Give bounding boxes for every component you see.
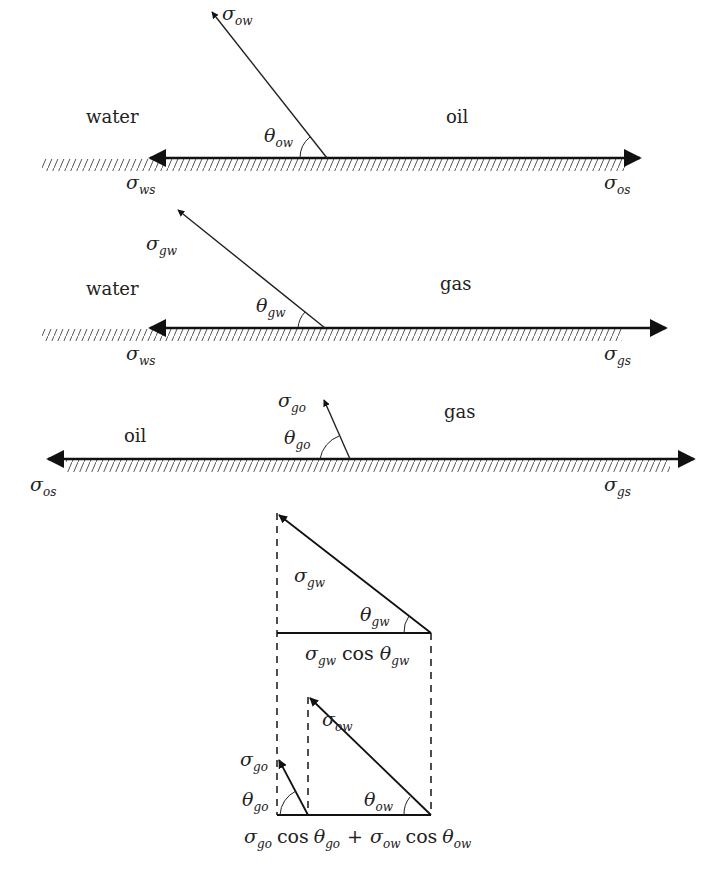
solid-surface-hatch xyxy=(42,329,622,341)
theta-ow-label: θow xyxy=(364,788,394,814)
projection-diagram: σgw θgw σgwcosθgw σow σgo θow θgo σgocos… xyxy=(240,513,472,851)
angle-arc-go xyxy=(280,791,296,815)
panel-water-gas: water gas σgw θgw σws σgs xyxy=(42,210,666,368)
phase-label-left: water xyxy=(86,106,139,127)
left-solid-tension: σos xyxy=(30,473,56,499)
angle-arc xyxy=(404,616,409,633)
angle-label: θgw xyxy=(360,603,390,629)
angle-arc xyxy=(298,312,305,328)
tension-label: σow xyxy=(222,2,253,28)
angle-arc-ow xyxy=(404,797,410,815)
panel-oil-gas: oil gas σgo θgo σos σgs xyxy=(30,389,694,499)
angle-arc xyxy=(300,137,310,158)
sigma-gw-vector xyxy=(178,210,325,328)
phase-label-right: gas xyxy=(444,401,476,422)
panel-water-oil: water oil σow θow σws σos xyxy=(42,2,640,197)
theta-go-label: θgo xyxy=(242,788,268,814)
left-solid-tension: σws xyxy=(126,342,155,368)
angle-label: θgo xyxy=(284,426,310,452)
left-solid-tension: σws xyxy=(126,171,155,197)
sigma-go-vector xyxy=(279,760,308,815)
solid-surface-hatch xyxy=(42,159,627,171)
angle-arc xyxy=(320,436,339,459)
angle-label: θow xyxy=(264,124,294,150)
sigma-ow-label: σow xyxy=(322,708,353,734)
hyp-label: σgw xyxy=(294,564,326,590)
diagram-canvas: water oil σow θow σws σos water gas σgw … xyxy=(0,0,716,878)
phase-label-left: oil xyxy=(124,425,147,446)
angle-label: θgw xyxy=(256,294,286,320)
phase-label-right: oil xyxy=(446,106,469,127)
sigma-go-label: σgo xyxy=(240,748,268,774)
right-solid-tension: σgs xyxy=(604,473,631,499)
projection-label: σgwcosθgw xyxy=(305,642,410,668)
solid-surface-hatch xyxy=(66,460,670,472)
phase-label-left: water xyxy=(86,278,139,299)
tension-label: σgo xyxy=(278,389,306,415)
right-solid-tension: σgs xyxy=(604,342,631,368)
sigma-go-vector xyxy=(324,400,350,459)
phase-label-right: gas xyxy=(440,273,472,294)
tension-label: σgw xyxy=(146,232,178,258)
sum-label: σgocosθgo+σowcosθow xyxy=(244,825,472,851)
right-solid-tension: σos xyxy=(604,171,630,197)
